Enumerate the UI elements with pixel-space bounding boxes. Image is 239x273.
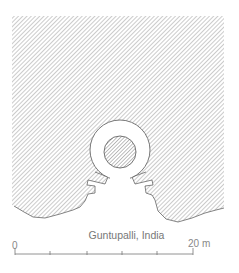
scale-start-label: 0 — [12, 240, 18, 251]
stupa-inner-dome — [104, 136, 136, 168]
scale-end-label: 20 m — [188, 238, 210, 249]
scale-bar — [15, 248, 193, 255]
rock-mass — [12, 16, 224, 222]
